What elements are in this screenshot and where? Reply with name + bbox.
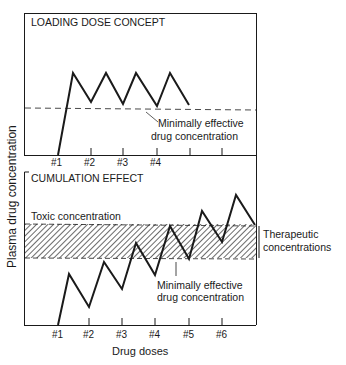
min-effective-dashed-line-bottom: [25, 258, 256, 259]
therapeutic-label-line2: concentrations: [263, 241, 331, 253]
bottom-annotation-line1: Minimally effective: [157, 279, 243, 291]
x-axis-label: Drug doses: [112, 345, 169, 357]
bottom-dose-label-1: #1: [52, 329, 64, 340]
top-dose-label-2: #2: [84, 157, 96, 168]
therapeutic-label-line1: Therapeutic: [263, 228, 318, 240]
top-annotation-line1: Minimally effective: [158, 117, 244, 129]
top-dose-label-1: #1: [51, 157, 63, 168]
top-panel: LOADING DOSE CONCEPT Minimally effective…: [25, 14, 257, 169]
annotation-leader: [146, 112, 158, 122]
min-effective-dashed-line: [25, 108, 256, 110]
top-annotation-line2: drug concentration: [151, 130, 238, 142]
bottom-dose-label-3: #3: [116, 329, 128, 340]
bottom-panel: CUMULATION EFFECT Toxic concentration Mi…: [24, 155, 331, 357]
bottom-tick-marks: [89, 318, 222, 325]
top-dose-label-4: #4: [150, 157, 162, 168]
top-panel-title: LOADING DOSE CONCEPT: [31, 16, 166, 28]
bottom-dose-label-6: #6: [216, 329, 228, 340]
top-dose-label-3: #3: [117, 157, 129, 168]
toxic-label: Toxic concentration: [31, 210, 121, 222]
bottom-panel-title: CUMULATION EFFECT: [31, 172, 144, 184]
bottom-dose-label-4: #4: [149, 329, 161, 340]
bottom-dose-label-2: #2: [83, 329, 95, 340]
top-concentration-curve: [58, 73, 189, 155]
y-axis-label: Plasma drug concentration: [5, 125, 19, 268]
figure: Plasma drug concentration LOADING DOSE C…: [0, 0, 346, 365]
bottom-dose-label-5: #5: [183, 329, 195, 340]
top-tick-marks: [91, 148, 222, 155]
bottom-annotation-line2: drug concentration: [157, 291, 244, 303]
